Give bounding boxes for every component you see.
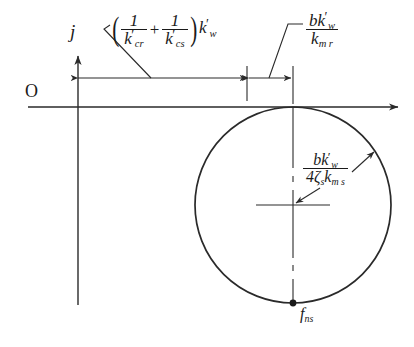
b-symbol: b [309,11,318,30]
paren-open: ( [112,14,119,45]
prime-mark: ′ [172,28,175,43]
origin-label: O [25,82,38,100]
multiplier-kw: k′w [199,18,217,37]
fraction-bkw-over-4zetakms: bk′w 4ζskm s [303,152,348,185]
denominator: k′cs [162,29,187,47]
subscript: m r [319,38,333,49]
point-fns-marker [290,300,297,307]
subscript: w [331,159,338,170]
circle-radius-label: bk′w 4ζskm s [303,152,348,185]
denominator: 4ζskm s [303,168,348,185]
prime-mark: ′ [131,28,134,43]
denominator: k′cr [121,29,146,47]
leader-line-center [296,188,320,203]
imaginary-axis-label: j [70,22,75,41]
paren-close: ) [190,14,197,45]
subscript: ns [304,313,313,324]
plus-operator: + [147,21,163,38]
four-symbol: 4 [306,168,314,185]
denominator: km r [306,29,338,47]
leader-line-right-expression [269,24,303,78]
k-symbol: k [311,29,319,48]
fraction-one-over-kcs: 1 k′cs [162,12,187,47]
zeta-subscript: s [320,176,324,187]
subscript: m s [331,176,345,187]
numerator: 1 [162,12,187,29]
dimension-label-right-expression: bk′w km r [306,12,338,47]
numerator: bk′w [306,12,338,29]
numerator: 1 [121,12,146,29]
point-fns-label: fns [300,306,313,322]
numerator: bk′w [303,152,348,168]
subscript: w [328,20,335,31]
b-symbol: b [313,151,321,168]
fraction-one-over-kcr: 1 k′cr [121,12,146,47]
subscript: cr [135,38,144,49]
fraction-bkw-over-kmr: bk′w km r [306,12,338,47]
leader-line-radius [352,152,374,172]
subscript: w [209,28,216,39]
figure-canvas: j O ( 1 k′cr + 1 k′cs )k′w bk′w km r bk′… [0,0,414,347]
diagram-svg [0,0,414,347]
subscript: cs [176,38,185,49]
dimension-label-left-expression: ( 1 k′cr + 1 k′cs )k′w [110,12,216,47]
dimension-witness-lines [247,66,293,104]
k-symbol: k [318,11,326,30]
